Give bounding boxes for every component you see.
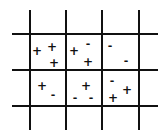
grid-horizontal-line bbox=[12, 105, 158, 107]
minus-charge-symbol: - bbox=[70, 93, 80, 103]
plus-charge-symbol: + bbox=[37, 81, 47, 91]
minus-charge-symbol: - bbox=[105, 41, 115, 51]
plus-charge-symbol: + bbox=[32, 46, 42, 56]
plus-charge-symbol: + bbox=[122, 85, 132, 95]
minus-charge-symbol: - bbox=[107, 76, 117, 86]
plus-charge-symbol: + bbox=[69, 46, 79, 56]
minus-charge-symbol: - bbox=[121, 56, 131, 66]
minus-charge-symbol: - bbox=[83, 39, 93, 49]
plus-charge-symbol: + bbox=[49, 58, 59, 68]
grid-horizontal-line bbox=[12, 33, 158, 35]
grid-horizontal-line bbox=[12, 69, 158, 71]
minus-charge-symbol: - bbox=[48, 90, 58, 100]
plus-charge-symbol: + bbox=[47, 42, 57, 52]
plus-charge-symbol: + bbox=[83, 57, 93, 67]
plus-charge-symbol: + bbox=[81, 81, 91, 91]
plus-charge-symbol: + bbox=[108, 93, 118, 103]
minus-charge-symbol: - bbox=[86, 93, 96, 103]
